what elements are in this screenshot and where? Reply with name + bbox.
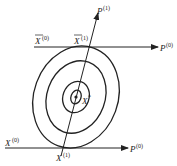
svg-text:(0): (0) [166, 42, 173, 49]
label-x0: X (0) [4, 137, 19, 148]
svg-text:X: X [55, 153, 62, 163]
svg-text:(1): (1) [63, 152, 70, 159]
label-p0-top: P (0) [159, 42, 173, 53]
label-p0-bottom: P (0) [129, 143, 143, 154]
svg-text:P: P [96, 6, 103, 16]
svg-text:(0): (0) [42, 35, 49, 42]
label-xbar1: X (1) [73, 35, 88, 46]
svg-text:P: P [129, 144, 136, 154]
diagram-canvas: P (1) P (0) P (0) X (0) X (1) X (0) X (1… [0, 0, 177, 166]
svg-text:(0): (0) [12, 137, 19, 144]
svg-text:X: X [34, 36, 41, 46]
svg-text:X: X [73, 36, 80, 46]
label-xbar0: X (0) [34, 35, 49, 46]
svg-text:(1): (1) [81, 35, 88, 42]
svg-text:(1): (1) [103, 5, 110, 12]
label-x1: X (1) [55, 152, 70, 163]
svg-text:P: P [159, 43, 166, 53]
label-p1: P (1) [96, 5, 110, 16]
label-xstar: X * [81, 94, 91, 106]
svg-text:*: * [88, 94, 91, 100]
conjugate-direction-line [61, 13, 98, 156]
svg-text:X: X [81, 96, 88, 106]
svg-text:X: X [4, 138, 11, 148]
svg-text:(0): (0) [136, 143, 143, 150]
